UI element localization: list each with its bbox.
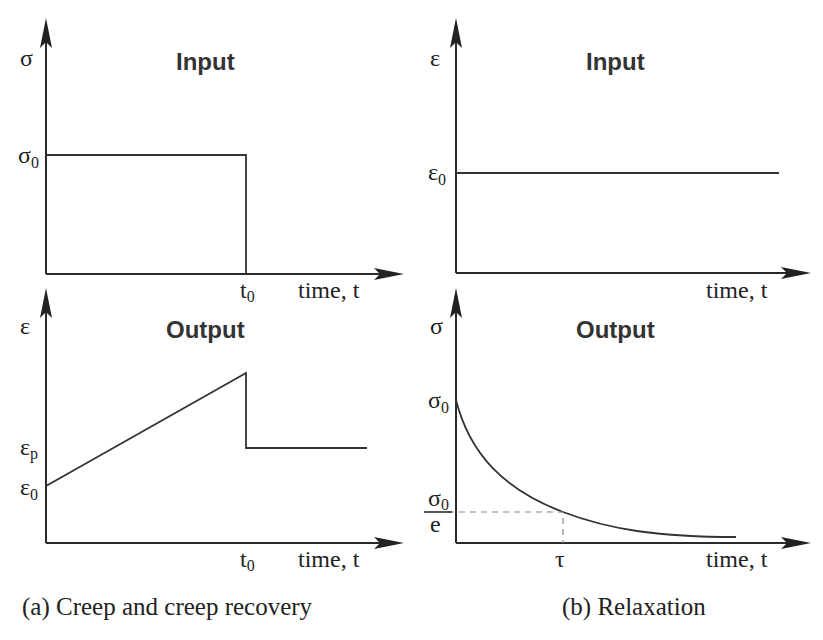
y-axis-label: ε — [20, 313, 30, 339]
x-axis-label: time, t — [298, 546, 360, 572]
creep-input-panel: σ Input σ0 t0 time, t — [18, 18, 404, 305]
tau-label: τ — [555, 546, 565, 572]
t0-label: t0 — [240, 277, 255, 305]
x-axis-label: time, t — [706, 277, 768, 303]
t0-label: t0 — [240, 546, 255, 574]
y-axis-label: ε — [430, 45, 440, 71]
epsilon0-label: ε0 — [428, 159, 446, 188]
relax-input-panel: ε Input ε0 time, t — [428, 18, 811, 303]
sigma0-over-e-label: σ0 e — [424, 485, 452, 537]
viscoelastic-diagram: σ Input σ0 t0 time, t ε Output εp ε0 t0 … — [0, 0, 823, 640]
panel-title: Output — [576, 316, 655, 343]
sigma0-label: σ0 — [18, 142, 39, 171]
y-axis-label: σ — [20, 45, 33, 71]
tau-guide-lines — [448, 512, 563, 543]
epsilon-p-label: εp — [20, 434, 38, 463]
step-input-line — [46, 155, 246, 274]
svg-text:e: e — [430, 511, 441, 537]
caption-a: (a) Creep and creep recovery — [22, 593, 313, 621]
relax-output-panel: σ Output σ0 σ0 e τ time, t — [424, 288, 811, 572]
panel-title: Input — [586, 48, 645, 75]
y-axis-label: σ — [430, 313, 443, 339]
svg-text:σ0: σ0 — [428, 485, 449, 513]
panel-title: Input — [176, 48, 235, 75]
x-axis-label: time, t — [298, 277, 360, 303]
x-axis-label: time, t — [706, 546, 768, 572]
sigma0-label: σ0 — [428, 387, 449, 416]
relaxation-curve — [456, 400, 736, 537]
epsilon0-label: ε0 — [20, 474, 38, 503]
creep-response-line — [46, 373, 367, 486]
caption-b: (b) Relaxation — [562, 593, 706, 621]
panel-title: Output — [166, 316, 245, 343]
creep-output-panel: ε Output εp ε0 t0 time, t — [20, 288, 404, 574]
